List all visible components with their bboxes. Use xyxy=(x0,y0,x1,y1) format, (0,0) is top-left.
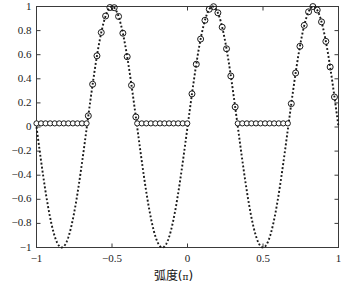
y-tick-label: 0.6 xyxy=(18,48,32,60)
chart-figure: −1−0.8−0.6−0.4−0.200.20.40.60.81 −1−0.50… xyxy=(0,0,347,291)
pi-symbol: π xyxy=(183,272,189,282)
y-tick-label: 0.2 xyxy=(18,96,32,108)
plot-canvas xyxy=(0,0,347,291)
x-tick-label: 0.5 xyxy=(243,252,283,264)
y-tick-label: 1 xyxy=(26,0,32,12)
y-tick-label: −0.6 xyxy=(12,192,32,204)
y-tick-label: −0.8 xyxy=(12,216,32,228)
clip-marker xyxy=(285,121,290,126)
y-tick-label: 0.8 xyxy=(18,24,32,36)
y-tick-label: 0.4 xyxy=(18,72,32,84)
x-tick-label: 1 xyxy=(319,252,347,264)
clip-marker xyxy=(185,121,190,126)
y-tick-label: −0.4 xyxy=(12,168,32,180)
x-tick-label: −0.5 xyxy=(92,252,132,264)
x-tick-label: −1 xyxy=(17,252,57,264)
series-clipped-zero-level xyxy=(34,121,291,126)
x-tick-label: 0 xyxy=(168,252,208,264)
clip-marker xyxy=(84,121,89,126)
y-tick-label: −0.2 xyxy=(12,144,32,156)
x-axis-label: 弧度(π) xyxy=(0,266,347,283)
y-tick-label: 0 xyxy=(26,120,32,132)
